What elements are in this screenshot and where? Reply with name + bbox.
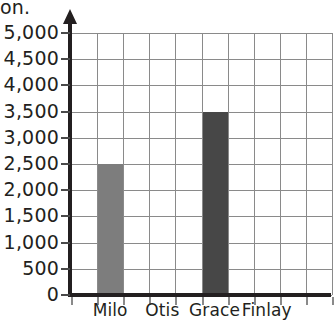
y-axis-tick bbox=[61, 111, 70, 113]
y-tick-label: 2,000 bbox=[0, 180, 59, 199]
y-tick-label: 2,500 bbox=[0, 154, 59, 173]
y-tick-label: 5,000 bbox=[0, 23, 59, 42]
x-axis-tick bbox=[71, 297, 73, 305]
y-tick-label: 1,500 bbox=[0, 206, 59, 225]
y-axis-line bbox=[68, 22, 72, 297]
gridline-vertical bbox=[306, 33, 307, 295]
y-axis-tick bbox=[61, 32, 70, 34]
gridline-vertical bbox=[123, 33, 124, 295]
gridline-vertical bbox=[175, 33, 176, 295]
x-tick-label-grace: Grace bbox=[189, 301, 240, 320]
bar-grace bbox=[203, 112, 228, 295]
y-tick-label: 500 bbox=[0, 259, 59, 278]
y-axis-tick bbox=[61, 242, 70, 244]
x-tick-label-milo: Milo bbox=[93, 301, 128, 320]
bar-milo bbox=[98, 164, 123, 295]
y-tick-label: 0 bbox=[0, 285, 59, 304]
y-tick-label: 1,000 bbox=[0, 233, 59, 252]
y-axis-tick bbox=[61, 163, 70, 165]
gridline-vertical bbox=[228, 33, 229, 295]
x-tick-label-finlay: Finlay bbox=[242, 301, 292, 320]
gridline-vertical bbox=[254, 33, 255, 295]
y-axis-tick bbox=[61, 215, 70, 217]
y-tick-label: 3,500 bbox=[0, 102, 59, 121]
gridline-vertical bbox=[332, 33, 333, 295]
y-axis-tick bbox=[61, 137, 70, 139]
gridline-vertical bbox=[149, 33, 150, 295]
y-axis-tick bbox=[61, 268, 70, 270]
y-axis-arrow-icon bbox=[63, 9, 77, 24]
x-tick-label-otis: Otis bbox=[145, 301, 179, 320]
y-tick-label: 4,500 bbox=[0, 49, 59, 68]
plot-area bbox=[71, 33, 332, 295]
y-tick-label: 3,000 bbox=[0, 128, 59, 147]
x-axis-line bbox=[68, 293, 331, 297]
gridline-vertical bbox=[280, 33, 281, 295]
y-axis-tick bbox=[61, 189, 70, 191]
y-tick-label: 4,000 bbox=[0, 75, 59, 94]
y-axis-tick bbox=[61, 58, 70, 60]
y-axis-tick bbox=[61, 84, 70, 86]
x-axis-tick bbox=[306, 297, 308, 305]
y-axis-tick-labels: 05001,0001,5002,0002,5003,0003,5004,0004… bbox=[0, 0, 59, 327]
y-axis-tick bbox=[61, 294, 70, 296]
